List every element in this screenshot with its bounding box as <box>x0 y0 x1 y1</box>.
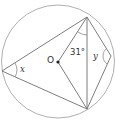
chord-right-bottom <box>87 56 111 109</box>
angle-label-y: y <box>92 51 98 61</box>
radius-bottom <box>58 62 87 109</box>
angle-label-31: 31° <box>70 47 85 57</box>
center-point <box>56 60 59 63</box>
angle-arc-y <box>103 48 107 64</box>
circle-diagram: O 31° x y <box>0 0 115 132</box>
angle-arc-x <box>15 63 17 77</box>
angle-arc-31 <box>78 32 87 35</box>
center-label: O <box>47 55 54 65</box>
angle-label-x: x <box>20 64 25 74</box>
